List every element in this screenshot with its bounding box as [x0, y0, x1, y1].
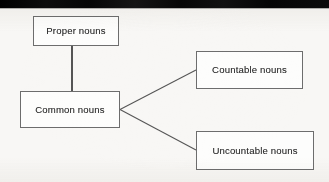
node-countable-nouns: Countable nouns	[196, 51, 303, 89]
edge-common-to-uncountable	[120, 110, 196, 151]
node-proper-nouns: Proper nouns	[33, 16, 119, 46]
node-common-nouns: Common nouns	[20, 91, 120, 128]
edge-common-to-countable	[120, 70, 196, 110]
diagram-canvas: Proper nouns Common nouns Countable noun…	[0, 0, 329, 182]
node-uncountable-nouns: Uncountable nouns	[196, 131, 314, 170]
node-uncountable-nouns-label: Uncountable nouns	[212, 146, 297, 156]
node-countable-nouns-label: Countable nouns	[212, 65, 287, 75]
node-common-nouns-label: Common nouns	[35, 105, 105, 115]
node-proper-nouns-label: Proper nouns	[46, 26, 105, 36]
